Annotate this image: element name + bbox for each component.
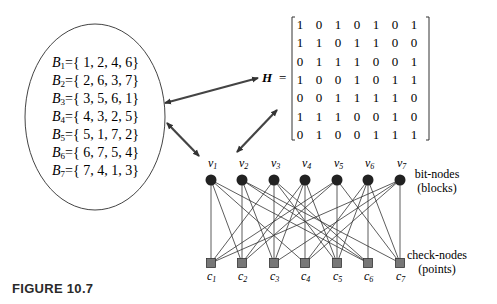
bit-node-v1 [206, 175, 217, 186]
check-node-c7 [396, 259, 405, 268]
matrix-cell: 1 [335, 17, 342, 32]
arrow-sets-to-matrix [165, 78, 258, 103]
matrix-cell: 0 [335, 72, 342, 87]
matrix-cell: 0 [411, 35, 418, 50]
matrix-cell: 0 [373, 72, 380, 87]
check-nodes-label: check-nodes [407, 248, 467, 262]
matrix-cell: 1 [297, 17, 304, 32]
matrix-cell: 1 [316, 35, 323, 50]
right-bracket [426, 17, 429, 140]
matrix-cell: 1 [392, 72, 399, 87]
block-set-6: B6={ 6, 7, 5, 4} [52, 145, 139, 161]
bit-node-label: v3 [271, 156, 280, 171]
block-set-2: B2={ 2, 6, 3, 7} [52, 73, 139, 89]
check-node-label: c3 [270, 269, 279, 284]
matrix-cell: 1 [297, 72, 304, 87]
bit-node-label: v5 [334, 156, 343, 171]
bit-node-v3 [269, 175, 280, 186]
graph-edge [305, 180, 400, 263]
left-bracket [292, 17, 295, 140]
block-sets-list: B1={ 1, 2, 4, 6}B2={ 2, 6, 3, 7}B3={ 3, … [52, 55, 139, 179]
bit-nodes-label: bit-nodes [415, 167, 460, 181]
bit-node-v6 [363, 175, 374, 186]
check-nodes-sublabel: (points) [418, 262, 455, 276]
bit-node-label: v2 [239, 156, 248, 171]
matrix-cell: 1 [411, 17, 418, 32]
matrix-cell: 0 [354, 127, 361, 142]
matrix-cell: 1 [316, 54, 323, 69]
graph-edge [211, 180, 400, 263]
block-set-3: B3={ 3, 5, 6, 1} [52, 91, 139, 107]
graph-edge [368, 180, 400, 263]
graph-edge [242, 180, 337, 263]
matrix-cell: 1 [373, 127, 380, 142]
check-node-c6 [364, 259, 373, 268]
arrow-graph-to-matrix [237, 110, 277, 152]
check-node-c2 [238, 259, 247, 268]
matrix-cell: 1 [392, 90, 399, 105]
matrix-cell: 1 [411, 54, 418, 69]
bit-node-label: v7 [397, 156, 407, 171]
matrix-cell: 0 [392, 35, 399, 50]
arrow-sets-to-graph [167, 123, 199, 156]
matrix-cell: 1 [354, 72, 361, 87]
matrix-cell: 0 [335, 127, 342, 142]
check-node-c5 [333, 259, 342, 268]
check-node-label: c6 [364, 269, 373, 284]
matrix-cell: 1 [411, 127, 418, 142]
matrix-cell: 0 [392, 54, 399, 69]
block-set-7: B7={ 7, 4, 1, 3} [52, 163, 139, 179]
matrix-equals: = [279, 70, 286, 85]
matrix-cell: 0 [316, 17, 323, 32]
matrix-cell: 1 [316, 109, 323, 124]
check-node-label: c2 [238, 269, 247, 284]
matrix-cell: 1 [297, 109, 304, 124]
matrix-cell: 1 [373, 17, 380, 32]
check-node-c4 [301, 259, 310, 268]
graph-edge [242, 180, 274, 263]
graph-edge [305, 180, 337, 263]
matrix-cell: 1 [354, 35, 361, 50]
matrix-cell: 0 [297, 54, 304, 69]
matrix-cell: 0 [335, 35, 342, 50]
graph-edge [211, 180, 274, 263]
matrix-cell: 0 [316, 90, 323, 105]
matrix-cell: 1 [411, 72, 418, 87]
parity-check-matrix: H=10101011101100011100110010110011110111… [261, 17, 429, 142]
bit-node-label: v4 [302, 156, 311, 171]
matrix-cell: 1 [297, 35, 304, 50]
matrix-cell: 1 [335, 109, 342, 124]
matrix-cell: 1 [392, 127, 399, 142]
matrix-cell: 0 [411, 90, 418, 105]
check-node-c1 [207, 259, 216, 268]
check-node-c3 [270, 259, 279, 268]
matrix-cell: 0 [411, 109, 418, 124]
block-set-5: B5={ 5, 1, 7, 2} [52, 127, 139, 143]
matrix-label: H [261, 70, 273, 85]
block-set-1: B1={ 1, 2, 4, 6} [52, 55, 139, 71]
bit-node-v7 [395, 175, 406, 186]
matrix-cell: 0 [373, 109, 380, 124]
matrix-cell: 0 [316, 72, 323, 87]
matrix-cell: 0 [354, 109, 361, 124]
matrix-cell: 1 [316, 127, 323, 142]
check-node-label: c5 [333, 269, 342, 284]
figure-caption: FIGURE 10.7 [12, 281, 93, 296]
bit-node-label: v1 [208, 156, 217, 171]
graph-edge [337, 180, 400, 263]
check-node-label: c4 [301, 269, 310, 284]
graph-nodes: v1v2v3v4v5v6v7c1c2c3c4c5c6c7 [206, 156, 408, 284]
block-set-4: B4={ 4, 3, 2, 5} [52, 109, 139, 125]
bit-node-label: v6 [365, 156, 374, 171]
matrix-cell: 1 [354, 54, 361, 69]
check-node-label: c1 [207, 269, 216, 284]
matrix-cell: 1 [373, 35, 380, 50]
bit-node-v2 [237, 175, 248, 186]
check-node-label: c7 [396, 269, 406, 284]
graph-edge [211, 180, 242, 263]
bit-node-v5 [332, 175, 343, 186]
bit-node-v4 [300, 175, 311, 186]
tanner-graph-figure: B1={ 1, 2, 4, 6}B2={ 2, 6, 3, 7}B3={ 3, … [0, 0, 497, 304]
matrix-cell: 1 [335, 90, 342, 105]
matrix-cell: 0 [354, 17, 361, 32]
